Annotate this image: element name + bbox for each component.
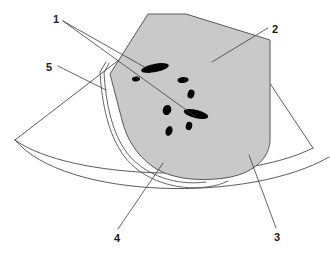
callout-label-5: 5 [46, 62, 52, 73]
leader-line-5 [58, 66, 106, 90]
sector-edge-left [15, 56, 124, 140]
callout-label-1: 1 [53, 14, 59, 25]
leader-line-3 [249, 155, 276, 228]
leader-line-4 [118, 163, 163, 229]
callout-label-2: 2 [272, 24, 278, 35]
ultrasound-diagram-figure: 1 2 5 4 3 [0, 0, 330, 259]
callout-label-4: 4 [114, 233, 120, 244]
diagram-canvas [0, 0, 330, 259]
callout-label-3: 3 [274, 232, 280, 243]
